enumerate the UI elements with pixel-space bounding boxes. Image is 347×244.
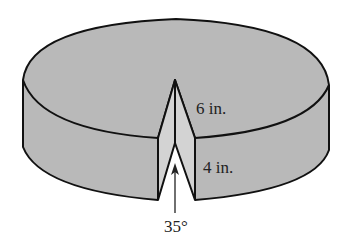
height-label: 4 in. xyxy=(203,158,233,177)
radius-label: 6 in. xyxy=(196,99,226,118)
cylinder-wedge-diagram: 6 in. 4 in. 35° xyxy=(0,0,347,244)
angle-label: 35° xyxy=(164,217,188,236)
